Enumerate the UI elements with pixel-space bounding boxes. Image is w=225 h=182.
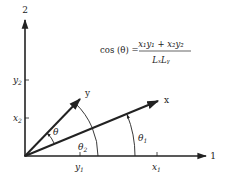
vector-x-label: x [164, 95, 169, 105]
label-y2: y2 [12, 75, 22, 86]
formula-numerator: x₁y₁ + x₂y₂ [138, 39, 184, 49]
horizontal-ticks: y1 x1 [74, 152, 161, 173]
label-y1: y1 [74, 162, 84, 173]
vector-angle-diagram: 2 1 y2 x2 y1 x1 y x [0, 0, 225, 182]
label-x2: x2 [13, 113, 22, 124]
vertical-ticks: y2 x2 [12, 75, 29, 124]
cosine-formula: cos (θ) = x₁y₁ + x₂y₂ LₓLᵧ [100, 39, 191, 65]
formula-denominator: LₓLᵧ [151, 55, 170, 65]
label-theta1: θ1 [138, 133, 147, 144]
vector-y-label: y [84, 88, 91, 98]
horizontal-axis-label: 1 [210, 151, 216, 161]
label-theta: θ [53, 127, 59, 137]
vector-x [25, 101, 158, 156]
vertical-axis-label: 2 [22, 5, 28, 15]
formula-lhs: cos (θ) = [100, 45, 139, 55]
label-x1: x1 [152, 162, 161, 173]
label-theta2: θ2 [78, 142, 87, 153]
arc-theta1 [127, 115, 135, 157]
